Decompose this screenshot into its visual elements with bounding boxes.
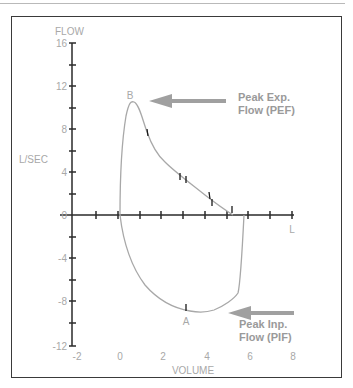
- y-tick-0: 0: [61, 210, 67, 221]
- y-tick-neg4: -4: [58, 253, 67, 264]
- x-tick-0: 0: [117, 351, 123, 362]
- pef-arrow-icon: [149, 94, 226, 108]
- x-tick-labels: -2 0 2 4 6 8: [73, 351, 297, 362]
- x-axis: [60, 211, 294, 219]
- y-axis-title: FLOW: [55, 26, 84, 37]
- y-axis: [69, 43, 76, 346]
- y-tick-12: 12: [56, 81, 68, 92]
- x-tick-6: 6: [247, 351, 253, 362]
- pif-label-line2: Flow (PIF): [239, 331, 292, 343]
- pef-label-line1: Peak Exp.: [238, 91, 290, 103]
- x-tick-8: 8: [290, 351, 296, 362]
- pif-label-line1: Peak Inp.: [239, 318, 287, 330]
- pef-label-line2: Flow (PEF): [238, 104, 295, 116]
- x-tick-neg2: -2: [73, 351, 82, 362]
- x-axis-unit: L: [289, 224, 295, 235]
- point-b-label: B: [127, 90, 134, 101]
- x-tick-4: 4: [204, 351, 210, 362]
- y-tick-16: 16: [56, 38, 68, 49]
- x-tick-2: 2: [160, 351, 166, 362]
- inspiratory-curve: [120, 215, 244, 312]
- expiratory-curve: [120, 102, 233, 215]
- x-axis-title: VOLUME: [172, 365, 215, 376]
- point-a-label: A: [183, 316, 190, 327]
- y-tick-neg12: -12: [53, 341, 68, 352]
- y-tick-neg8: -8: [58, 296, 67, 307]
- y-tick-4: 4: [61, 167, 67, 178]
- y-tick-labels: 16 12 8 4 0 -4 -8 -12: [53, 38, 68, 352]
- flow-volume-chart: 16 12 8 4 0 -4 -8 -12 -2 0 2 4 6 8 FLOW …: [0, 0, 353, 388]
- y-tick-8: 8: [61, 124, 67, 135]
- y-axis-unit: L/SEC: [19, 154, 48, 165]
